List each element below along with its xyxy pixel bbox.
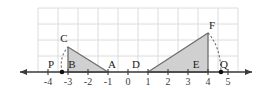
point-label-f: F bbox=[209, 19, 215, 31]
axis-tick-label: -3 bbox=[64, 76, 72, 87]
axis-tick-label: 3 bbox=[186, 76, 191, 87]
figure-background bbox=[0, 0, 264, 94]
point-marker-q bbox=[219, 70, 224, 75]
axis-tick-label: 1 bbox=[146, 76, 151, 87]
point-label-p: P bbox=[48, 58, 54, 70]
axis-tick-label: -1 bbox=[104, 76, 112, 87]
point-marker-p bbox=[60, 70, 65, 75]
axis-tick-label: -2 bbox=[84, 76, 92, 87]
axis-tick-label: 4 bbox=[206, 76, 211, 87]
axis-tick-label: 0 bbox=[126, 76, 131, 87]
point-label-e: E bbox=[193, 58, 200, 70]
geometry-figure: -4-3-2-1012345 PBACDEFQ bbox=[0, 0, 264, 94]
axis-tick-label: 5 bbox=[226, 76, 231, 87]
axis-tick-label: -4 bbox=[44, 76, 52, 87]
axis-tick-label: 2 bbox=[166, 76, 171, 87]
point-label-c: C bbox=[60, 32, 67, 44]
figure-canvas: -4-3-2-1012345 PBACDEFQ bbox=[0, 0, 264, 94]
point-label-q: Q bbox=[220, 58, 228, 70]
point-label-a: A bbox=[108, 58, 116, 70]
point-label-b: B bbox=[68, 58, 75, 70]
point-label-d: D bbox=[132, 58, 140, 70]
